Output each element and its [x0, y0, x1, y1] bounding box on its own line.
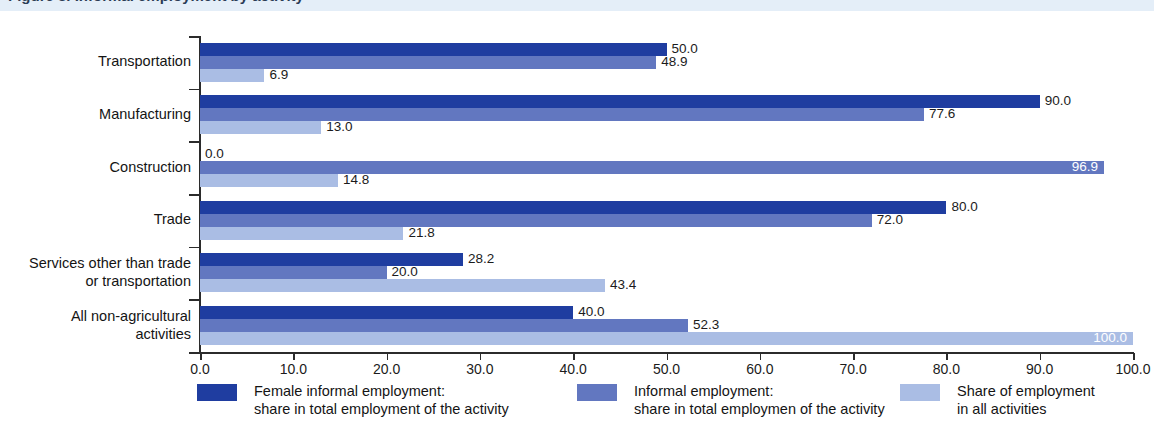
bar-row: 0.0 [200, 148, 1133, 161]
bar-6-2[interactable] [200, 319, 688, 332]
legend-label-2: Informal employment:share in total emplo… [634, 382, 885, 418]
bar-group-1: 50.048.96.9 [200, 36, 1133, 89]
bar-row: 52.3 [200, 319, 1133, 332]
bar-row: 6.9 [200, 69, 1133, 82]
bar-4-2[interactable] [200, 214, 872, 227]
bar-2-3[interactable] [200, 121, 321, 134]
legend-item-2[interactable]: Informal employment:share in total emplo… [577, 382, 885, 418]
x-tick-7 [853, 353, 855, 360]
x-tick-2 [387, 353, 389, 360]
bar-value-label: 80.0 [946, 200, 977, 213]
category-label-line: Manufacturing [0, 105, 191, 123]
bar-value-label: 100.0 [1093, 331, 1133, 344]
legend-swatch-2 [577, 384, 617, 401]
category-label-line: All non-agricultural [0, 307, 191, 325]
bar-2-1[interactable] [200, 95, 1040, 108]
legend-swatch-3 [900, 384, 940, 401]
bar-3-3[interactable] [200, 174, 338, 187]
category-label-line: Trade [0, 210, 191, 228]
bar-group-2: 90.077.613.0 [200, 89, 1133, 142]
legend-label-line1: Share of employment [957, 382, 1095, 400]
category-label-line: activities [0, 325, 191, 343]
x-tick-label-4: 40.0 [560, 361, 587, 377]
bar-row: 28.2 [200, 253, 1133, 266]
bar-value-label: 48.9 [656, 55, 687, 68]
chart-area: 0.010.020.030.040.050.060.070.080.090.01… [0, 11, 1154, 436]
category-label-2: Manufacturing [0, 105, 191, 123]
x-tick-label-1: 10.0 [280, 361, 307, 377]
legend-item-3[interactable]: Share of employmentin all activities [900, 382, 1095, 418]
x-tick-1 [293, 353, 295, 360]
bar-row: 43.4 [200, 279, 1133, 292]
y-tick-4 [189, 247, 200, 249]
bar-group-5: 28.220.043.4 [200, 247, 1133, 300]
bar-6-1[interactable] [200, 306, 573, 319]
y-tick-2 [189, 141, 200, 143]
category-label-line: Services other than trade [0, 254, 191, 272]
bar-1-1[interactable] [200, 43, 667, 56]
bar-value-label: 50.0 [667, 42, 698, 55]
category-label-6: All non-agriculturalactivities [0, 307, 191, 343]
chart-title-band: Figure 3. Informal employment by activit… [0, 0, 1154, 11]
bar-3-2[interactable] [200, 161, 1104, 174]
bar-5-3[interactable] [200, 279, 605, 292]
x-tick-5 [667, 353, 669, 360]
legend-item-1[interactable]: Female informal employment:share in tota… [197, 382, 509, 418]
x-tick-label-2: 20.0 [373, 361, 400, 377]
y-tick-0 [189, 36, 200, 38]
bar-value-label: 40.0 [573, 305, 604, 318]
bar-4-3[interactable] [200, 227, 403, 240]
bar-value-label: 13.0 [321, 120, 352, 133]
category-label-1: Transportation [0, 52, 191, 70]
chart-legend: Female informal employment:share in tota… [0, 382, 1154, 436]
y-tick-6 [189, 352, 200, 354]
bar-value-label: 90.0 [1040, 94, 1071, 107]
bar-value-label: 20.0 [387, 265, 418, 278]
bar-4-1[interactable] [200, 201, 946, 214]
x-tick-9 [1040, 353, 1042, 360]
x-tick-4 [573, 353, 575, 360]
x-tick-label-5: 50.0 [653, 361, 680, 377]
bar-group-4: 80.072.021.8 [200, 194, 1133, 247]
bar-6-3[interactable] [200, 332, 1133, 345]
bar-value-label: 28.2 [463, 252, 494, 265]
bar-row: 80.0 [200, 201, 1133, 214]
bar-row: 40.0 [200, 306, 1133, 319]
bar-row: 20.0 [200, 266, 1133, 279]
x-tick-label-6: 60.0 [746, 361, 773, 377]
legend-label-line2: share in total employment of the activit… [254, 400, 509, 418]
bar-value-label: 52.3 [688, 318, 719, 331]
bar-5-1[interactable] [200, 253, 463, 266]
bar-value-label: 14.8 [338, 173, 369, 186]
bar-group-3: 0.096.914.8 [200, 141, 1133, 194]
category-label-line: or transportation [0, 272, 191, 290]
bar-group-6: 40.052.3100.0 [200, 299, 1133, 352]
bar-value-label: 96.9 [1072, 160, 1104, 173]
category-label-4: Trade [0, 210, 191, 228]
x-tick-label-0: 0.0 [190, 361, 209, 377]
x-tick-10 [1133, 353, 1135, 360]
category-label-3: Construction [0, 158, 191, 176]
x-tick-label-7: 70.0 [839, 361, 866, 377]
x-tick-6 [760, 353, 762, 360]
x-tick-label-3: 30.0 [466, 361, 493, 377]
bar-5-2[interactable] [200, 266, 387, 279]
bar-row: 90.0 [200, 95, 1133, 108]
bar-value-label: 21.8 [403, 226, 434, 239]
x-tick-8 [946, 353, 948, 360]
category-label-line: Transportation [0, 52, 191, 70]
bar-value-label: 6.9 [264, 68, 288, 81]
bar-1-3[interactable] [200, 69, 264, 82]
bar-value-label: 77.6 [924, 107, 955, 120]
legend-label-1: Female informal employment:share in tota… [254, 382, 509, 418]
y-tick-5 [189, 299, 200, 301]
bar-2-2[interactable] [200, 108, 924, 121]
bar-row: 72.0 [200, 214, 1133, 227]
bar-value-label: 0.0 [200, 147, 224, 160]
bar-value-label: 72.0 [872, 213, 903, 226]
legend-label-line2: in all activities [957, 400, 1095, 418]
bar-value-label: 43.4 [605, 278, 636, 291]
bar-row: 48.9 [200, 56, 1133, 69]
x-tick-label-9: 90.0 [1026, 361, 1053, 377]
legend-label-line1: Informal employment: [634, 382, 885, 400]
